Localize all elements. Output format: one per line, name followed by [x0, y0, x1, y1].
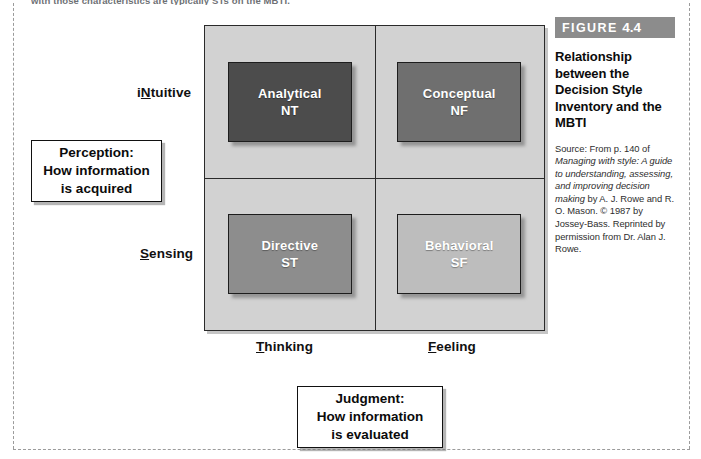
figure-title: Relationship between the Decision Style … [555, 49, 675, 132]
style-box-code: NF [450, 102, 468, 119]
figure-source-prefix: Source: From p. 140 of [555, 143, 650, 154]
page-frame-right [689, 3, 690, 449]
style-box-label: Conceptual [423, 85, 496, 102]
figure-source-note: Source: From p. 140 of Managing with sty… [555, 143, 675, 256]
axis-label-sensing: Sensing [140, 246, 193, 261]
axis-label-intuitive: iNtuitive [137, 85, 191, 100]
axis-label-intuitive-suffix: tuitive [151, 85, 191, 100]
figure-banner-word: FIGURE [562, 21, 618, 35]
style-box-analytical-nt[interactable]: Analytical NT [228, 62, 352, 142]
axis-label-feeling-suffix: eeling [436, 339, 476, 354]
style-box-code: SF [451, 254, 468, 271]
callout-perception-line3: is acquired [61, 180, 132, 198]
style-box-label: Behavioral [425, 237, 493, 254]
matrix-cell-sensing-thinking: Directive ST [205, 178, 375, 330]
style-box-label: Directive [261, 237, 318, 254]
axis-label-thinking-suffix: hinking [264, 339, 313, 354]
axis-label-thinking: Thinking [256, 339, 313, 354]
callout-perception-line2: How information [43, 162, 150, 180]
running-body-text: with those characteristics are typically… [31, 0, 451, 5]
decision-style-matrix: Analytical NT Conceptual NF Directive ST… [204, 25, 545, 331]
axis-label-sensing-key: S [140, 246, 149, 261]
style-box-conceptual-nf[interactable]: Conceptual NF [397, 62, 521, 142]
page-frame-bottom [13, 449, 690, 450]
page-frame-left [13, 3, 14, 449]
figure-caption-column: FIGURE 4.4 Relationship between the Deci… [555, 17, 675, 256]
figure-page: with those characteristics are typically… [0, 0, 701, 459]
callout-perception-line1: Perception: [59, 144, 133, 162]
figure-number-banner: FIGURE 4.4 [555, 17, 675, 38]
matrix-cell-intuitive-feeling: Conceptual NF [375, 26, 545, 178]
matrix-cell-sensing-feeling: Behavioral SF [375, 178, 545, 330]
axis-label-sensing-suffix: ensing [149, 246, 193, 261]
style-box-label: Analytical [258, 85, 321, 102]
axis-label-feeling: Feeling [428, 339, 476, 354]
callout-judgment: Judgment: How information is evaluated [297, 386, 443, 448]
axis-label-intuitive-key: N [141, 85, 151, 100]
style-box-code: ST [281, 254, 298, 271]
callout-judgment-line1: Judgment: [336, 390, 405, 408]
figure-banner-number: 4.4 [622, 20, 641, 35]
callout-judgment-line2: How information [317, 408, 424, 426]
callout-perception: Perception: How information is acquired [31, 140, 162, 202]
style-box-code: NT [281, 102, 299, 119]
callout-judgment-line3: is evaluated [331, 426, 408, 444]
style-box-behavioral-sf[interactable]: Behavioral SF [397, 214, 521, 294]
matrix-cell-intuitive-thinking: Analytical NT [205, 26, 375, 178]
style-box-directive-st[interactable]: Directive ST [228, 214, 352, 294]
